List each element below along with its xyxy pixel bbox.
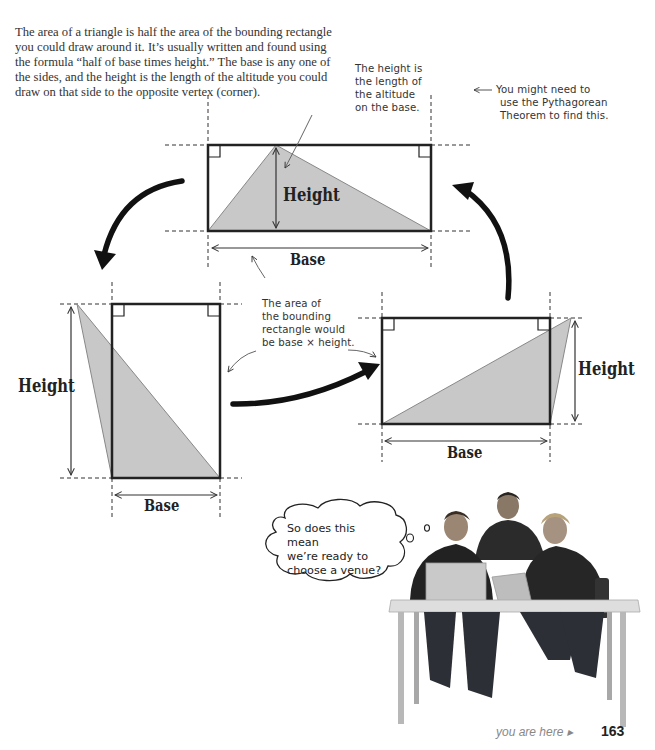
left-triangle-diagram xyxy=(60,282,242,520)
curved-arrow-top-to-left xyxy=(104,181,182,255)
curved-arrow-left-to-right xyxy=(233,372,365,404)
area-note: The area of the bounding rectangle would… xyxy=(262,297,355,349)
top-base-label: Base xyxy=(290,250,325,269)
you-are-here-link: you are here ▸ xyxy=(496,725,573,739)
curved-arrow-right-to-top xyxy=(465,190,509,298)
right-triangle-diagram xyxy=(358,292,582,462)
arrowhead-icon xyxy=(94,250,116,270)
top-height-label: Height xyxy=(283,184,340,205)
height-note: The height is the length of the altitude… xyxy=(355,62,422,114)
left-base-label: Base xyxy=(144,496,179,515)
thought-bubble-text: So does this mean we’re ready to choose … xyxy=(287,522,387,578)
pythagorean-note: You might need to use the Pythagorean Th… xyxy=(450,83,609,122)
right-base-label: Base xyxy=(447,443,482,462)
left-height-label: Height xyxy=(18,375,75,396)
right-height-label: Height xyxy=(578,358,635,379)
page-number: 163 xyxy=(601,723,624,739)
